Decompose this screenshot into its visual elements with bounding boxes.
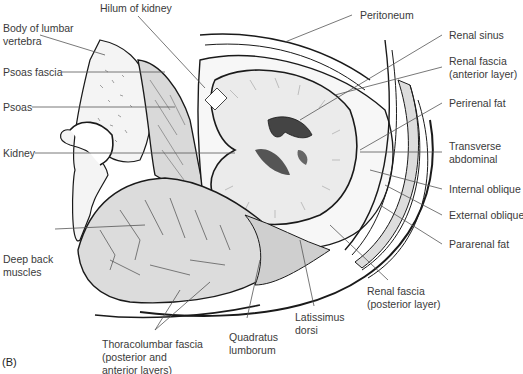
label-renal-fascia-posterior-line2: (posterior layer) xyxy=(367,298,441,311)
label-external-oblique: External oblique xyxy=(449,209,523,222)
label-pararenal-fat: Pararenal fat xyxy=(449,238,509,251)
label-transverse-abdominal-line2: abdominal xyxy=(449,153,497,166)
label-psoas-fascia: Psoas fascia xyxy=(3,66,63,79)
label-thoracolumbar-fascia-line2: (posterior and xyxy=(102,351,167,364)
label-deep-back-muscles-line2: muscles xyxy=(3,266,42,279)
label-deep-back-muscles-line1: Deep back xyxy=(3,253,53,266)
label-thoracolumbar-fascia-line3: anterior layers) xyxy=(102,364,172,374)
label-body-of-lumbar-vertebra-line2: vertebra xyxy=(3,35,42,48)
label-kidney: Kidney xyxy=(3,147,35,160)
label-quadratus-lumborum-line1: Quadratus xyxy=(229,331,278,344)
panel-label: (B) xyxy=(2,356,17,368)
label-internal-oblique: Internal oblique xyxy=(449,183,521,196)
label-latissimus-dorsi-line1: Latissimus xyxy=(295,311,345,324)
kidney-cross-section-illustration xyxy=(0,0,523,374)
label-renal-fascia-posterior-line1: Renal fascia xyxy=(367,285,425,298)
label-quadratus-lumborum-line2: lumborum xyxy=(229,344,276,357)
label-renal-fascia-anterior-line2: (anterior layer) xyxy=(449,68,517,81)
label-latissimus-dorsi-line2: dorsi xyxy=(295,324,318,337)
label-peritoneum: Peritoneum xyxy=(360,9,414,22)
label-renal-fascia-anterior-line1: Renal fascia xyxy=(449,55,507,68)
label-transverse-abdominal-line1: Transverse xyxy=(449,140,501,153)
label-thoracolumbar-fascia-line1: Thoracolumbar fascia xyxy=(102,338,203,351)
label-body-of-lumbar-vertebra-line1: Body of lumbar xyxy=(3,22,74,35)
label-psoas: Psoas xyxy=(3,101,32,114)
anatomy-figure: Hilum of kidney Body of lumbar vertebra … xyxy=(0,0,523,374)
label-renal-sinus: Renal sinus xyxy=(449,29,504,42)
label-perirenal-fat: Perirenal fat xyxy=(449,97,506,110)
label-hilum-of-kidney: Hilum of kidney xyxy=(100,2,172,15)
